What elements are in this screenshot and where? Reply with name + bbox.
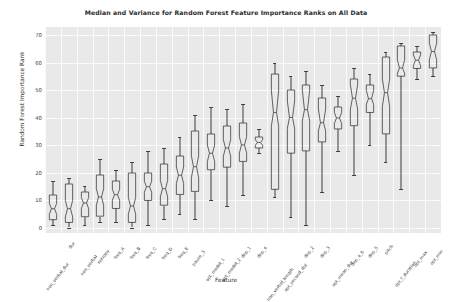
boxplot-box	[140, 27, 156, 233]
boxplot-cap-high	[257, 129, 261, 130]
boxplot-box	[267, 27, 283, 233]
boxplot-box	[330, 27, 346, 233]
boxplot-whisker-low	[385, 134, 386, 161]
boxplot-box	[188, 27, 204, 233]
boxplot-cap-high	[399, 43, 403, 44]
y-axis-tick-label: 30	[16, 142, 42, 148]
x-axis-tick-label: opt_min	[440, 235, 452, 252]
boxplot-cap-low	[352, 175, 356, 176]
boxplot-box	[314, 27, 330, 233]
boxplot-whisker-low	[195, 192, 196, 219]
boxplot-body	[208, 134, 215, 170]
boxplot-whisker-low	[401, 76, 402, 189]
boxplot-whisker-high	[274, 63, 275, 74]
boxplot-body	[239, 123, 246, 161]
boxplot-whisker-high	[290, 76, 291, 90]
boxplot-cap-low	[415, 79, 419, 80]
boxplot-box	[172, 27, 188, 233]
boxplot-whisker-high	[195, 115, 196, 131]
boxplot-box	[393, 27, 409, 233]
boxplot-cap-low	[51, 225, 55, 226]
x-axis-tick-label: freq_A	[122, 235, 135, 249]
boxplot-whisker-low	[116, 208, 117, 222]
boxplot-whisker-high	[179, 137, 180, 156]
boxplot-cap-high	[241, 104, 245, 105]
boxplot-cap-low	[114, 222, 118, 223]
boxplot-whisker-low	[211, 170, 212, 200]
boxplot-cap-high	[83, 186, 87, 187]
boxplot-cap-high	[384, 52, 388, 53]
boxplot-box	[93, 27, 109, 233]
boxplot-body	[49, 195, 56, 220]
boxplot-box	[203, 27, 219, 233]
boxplot-cap-high	[99, 159, 103, 160]
boxplot-body	[97, 175, 104, 216]
boxplot-body	[113, 181, 120, 208]
boxplot-cap-high	[178, 137, 182, 138]
boxplot-box	[425, 27, 441, 233]
boxplot-whisker-low	[417, 68, 418, 79]
boxplot-cap-high	[114, 170, 118, 171]
boxplot-whisker-high	[258, 129, 259, 137]
boxplot-whisker-low	[242, 162, 243, 195]
boxplot-body	[429, 35, 436, 68]
boxplot-cap-high	[225, 109, 229, 110]
boxplot-whisker-low	[227, 167, 228, 205]
boxplot-whisker-high	[322, 85, 323, 99]
boxplot-whisker-high	[163, 148, 164, 164]
boxplot-cap-high	[51, 181, 55, 182]
boxplot-body	[144, 173, 151, 200]
y-axis-tick-label: 50	[16, 87, 42, 93]
x-axis-tick-row: non_verbal_durdurnon_verbalentropyfreq_A…	[45, 235, 441, 297]
boxplot-cap-low	[289, 217, 293, 218]
plot-area	[45, 27, 441, 233]
x-axis-tick-label: pause_3	[202, 235, 217, 252]
boxplot-cap-low	[304, 225, 308, 226]
boxplot-whisker-low	[369, 112, 370, 145]
boxplot-box	[378, 27, 394, 233]
boxplot-body	[319, 98, 326, 142]
boxplot-whisker-low	[84, 217, 85, 225]
chart-title: Median and Variance for Random Forest Fe…	[0, 9, 452, 16]
boxplot-whisker-high	[227, 109, 228, 125]
boxplot-body	[65, 184, 72, 222]
x-axis-tick-label: dep_4	[264, 235, 276, 249]
boxplot-body	[334, 107, 341, 129]
boxplot-box	[362, 27, 378, 233]
boxplot-box	[298, 27, 314, 233]
boxplot-cap-low	[336, 151, 340, 152]
boxplot-cap-high	[67, 178, 71, 179]
boxplot-whisker-low	[433, 68, 434, 76]
boxplot-cap-low	[241, 195, 245, 196]
x-axis-tick-label: dep_5	[375, 235, 387, 249]
boxplot-cap-high	[130, 162, 134, 163]
boxplot-cap-low	[320, 192, 324, 193]
boxplot-whisker-high	[52, 181, 53, 195]
boxplot-box	[61, 27, 77, 233]
boxplot-body	[366, 85, 373, 112]
boxplot-whisker-high	[211, 107, 212, 134]
boxplot-body	[414, 52, 421, 68]
boxplot-box	[77, 27, 93, 233]
boxplot-body	[128, 173, 135, 222]
boxplot-cap-low	[225, 206, 229, 207]
boxplot-body	[287, 90, 294, 153]
boxplot-whisker-low	[353, 126, 354, 175]
boxplot-box	[283, 27, 299, 233]
boxplot-body	[81, 192, 88, 217]
boxplot-cap-high	[368, 74, 372, 75]
boxplot-cap-high	[304, 71, 308, 72]
boxplot-whisker-low	[306, 151, 307, 225]
boxplot-body	[160, 164, 167, 205]
x-axis-tick-label: freq_B	[137, 235, 150, 249]
y-axis-tick-column: 010203040506070	[12, 27, 42, 233]
boxplot-cap-high	[209, 107, 213, 108]
boxplot-body	[303, 85, 310, 151]
boxplot-cap-high	[273, 63, 277, 64]
boxplot-cap-low	[67, 228, 71, 229]
x-axis-tick-label: dur	[72, 235, 80, 244]
x-axis-label: Feature	[0, 277, 452, 283]
boxplot-whisker-high	[116, 170, 117, 181]
boxplot-box	[235, 27, 251, 233]
boxplot-whisker-high	[100, 159, 101, 175]
